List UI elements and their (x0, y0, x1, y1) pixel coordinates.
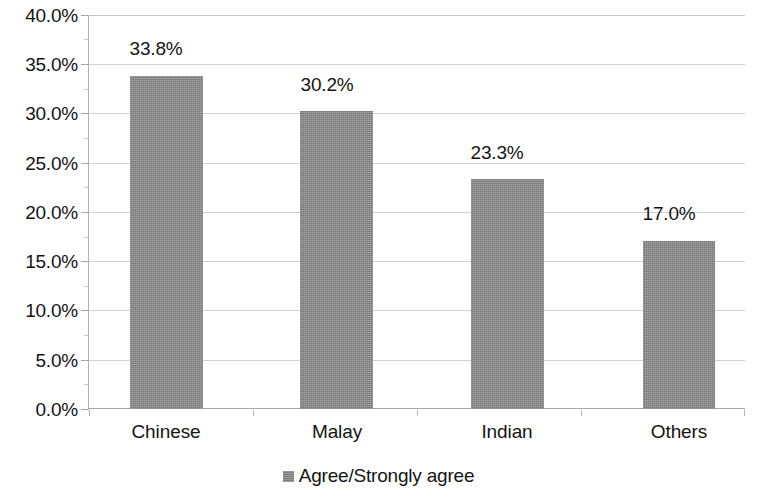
x-axis-tick (581, 410, 582, 416)
y-axis-tick-label: 25.0% (0, 154, 78, 173)
x-axis-label-chinese: Chinese (100, 421, 232, 442)
y-axis-tick-label: 35.0% (0, 55, 78, 74)
x-axis-tick (417, 410, 418, 416)
bar-indian[interactable] (471, 179, 544, 409)
y-axis-minor-tick (84, 335, 88, 336)
x-axis-tick (744, 410, 745, 416)
bar-others[interactable] (643, 241, 715, 409)
x-axis-label-malay: Malay (271, 421, 403, 442)
y-axis-tick-label: 5.0% (0, 351, 78, 370)
bar-chinese[interactable] (130, 76, 203, 409)
y-axis-tick (81, 163, 88, 164)
y-axis-tick (81, 360, 88, 361)
y-axis-tick-label: 15.0% (0, 252, 78, 271)
y-axis-tick-label: 10.0% (0, 301, 78, 320)
y-axis-tick (81, 310, 88, 311)
x-axis-tick (253, 410, 254, 416)
y-axis-minor-tick (84, 237, 88, 238)
y-axis-minor-tick (84, 187, 88, 188)
data-label-indian: 23.3% (431, 143, 563, 162)
y-axis-minor-tick (84, 286, 88, 287)
y-axis-tick-label: 30.0% (0, 104, 78, 123)
legend-swatch-icon (283, 471, 294, 482)
bar-malay[interactable] (300, 111, 373, 409)
y-axis-minor-tick (84, 138, 88, 139)
y-axis-tick-labels: 40.0% 35.0% 30.0% 25.0% 20.0% 15.0% 10.0… (0, 0, 78, 498)
y-axis-minor-tick (84, 384, 88, 385)
x-axis-label-indian: Indian (441, 421, 573, 442)
legend: Agree/Strongly agree (0, 466, 757, 486)
y-axis-tick-label: 40.0% (0, 6, 78, 25)
y-axis-tick (81, 64, 88, 65)
legend-item-label: Agree/Strongly agree (299, 466, 475, 486)
data-label-others: 17.0% (603, 204, 735, 223)
x-axis-label-others: Others (613, 421, 745, 442)
x-axis-tick (89, 410, 90, 416)
y-axis-tick-label: 0.0% (0, 400, 78, 419)
y-axis-minor-tick (84, 39, 88, 40)
y-axis-tick (81, 261, 88, 262)
y-axis-tick (81, 113, 88, 114)
data-label-chinese: 33.8% (90, 39, 222, 58)
legend-item-agree-strongly-agree[interactable]: Agree/Strongly agree (283, 466, 475, 486)
y-axis-tick (81, 15, 88, 16)
gridline (89, 15, 745, 16)
data-label-malay: 30.2% (261, 75, 393, 94)
bar-chart: 40.0% 35.0% 30.0% 25.0% 20.0% 15.0% 10.0… (0, 0, 757, 498)
y-axis-tick-label: 20.0% (0, 203, 78, 222)
y-axis-tick (81, 212, 88, 213)
gridline (89, 64, 745, 65)
y-axis-minor-tick (84, 89, 88, 90)
y-axis-tick (81, 409, 88, 410)
